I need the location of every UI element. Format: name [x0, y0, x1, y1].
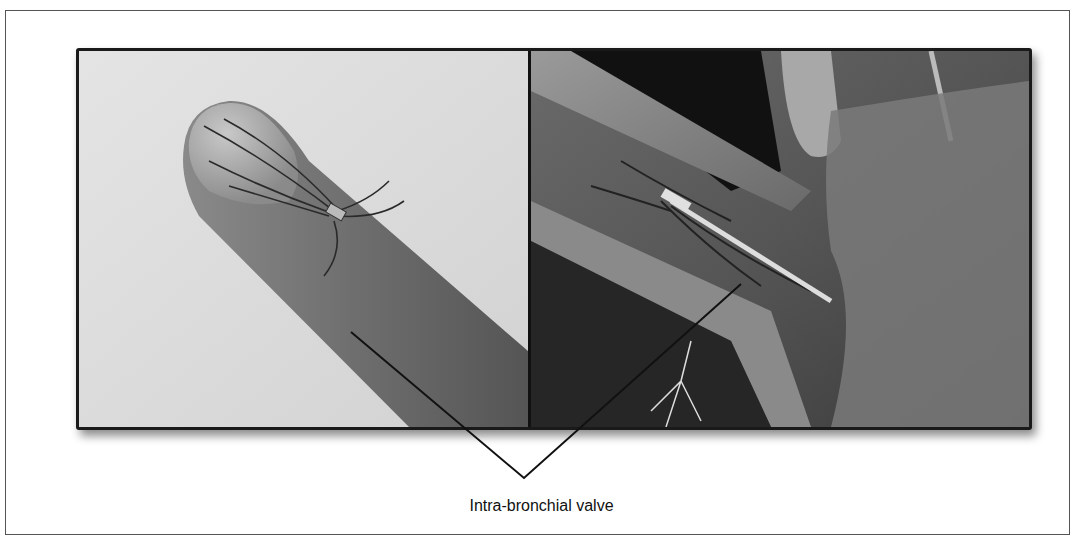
figure-caption: Intra-bronchial valve — [0, 497, 1083, 515]
leader-lines — [0, 0, 1083, 558]
